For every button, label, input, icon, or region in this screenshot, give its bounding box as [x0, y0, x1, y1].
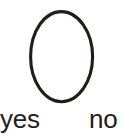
ellipse-outline-icon: [31, 12, 93, 102]
label-yes: yes: [0, 106, 40, 132]
diagram-canvas: yes no: [0, 0, 125, 134]
label-no: no: [89, 106, 118, 132]
